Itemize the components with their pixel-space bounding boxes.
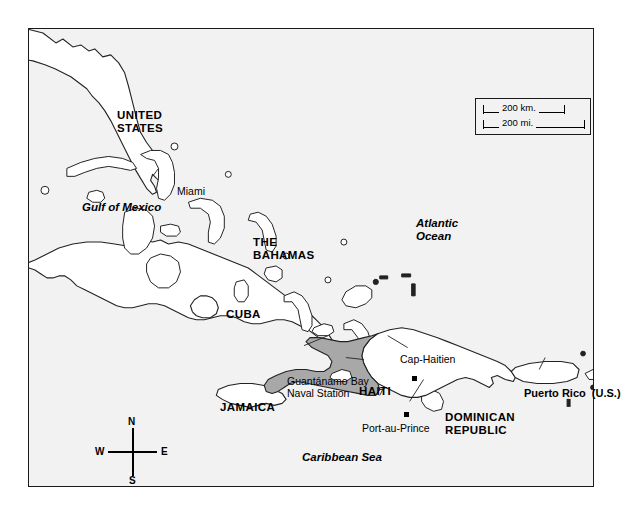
scale-bar-km: 200 km.	[483, 103, 585, 116]
label-united-states: UNITED STATES	[117, 109, 163, 135]
label-cuba: CUBA	[226, 308, 261, 321]
landmass-turks-and-caicos	[342, 274, 415, 308]
landmass-virgin-islands	[581, 351, 593, 390]
compass-label-west: W	[95, 446, 104, 457]
label-jamaica: JAMAICA	[220, 401, 275, 414]
label-gulf-of-mexico: Gulf of Mexico	[82, 201, 161, 214]
label-dominican-republic: DOMINICAN REPUBLIC	[445, 411, 515, 437]
compass-horizontal-axis	[108, 451, 157, 453]
scale-bar-mi-tick-right	[584, 120, 585, 129]
label-guantanamo-bay-naval-station: Guantánamo Bay Naval Station	[287, 376, 369, 400]
label-caribbean-sea: Caribbean Sea	[302, 451, 382, 464]
city-dot-cap-haitien	[412, 376, 417, 381]
map-page: 200 km. 200 mi. N S W E UNITED STATES TH…	[0, 0, 621, 519]
compass-label-south: S	[129, 475, 136, 486]
city-dot-port-au-prince	[404, 412, 409, 417]
compass-rose: N S W E	[95, 418, 171, 486]
scale-bar-km-tick-left	[483, 105, 484, 114]
landmass-puerto-rico	[511, 362, 579, 384]
scale-bar-km-label: 200 km.	[499, 102, 539, 113]
label-miami: Miami	[177, 186, 205, 198]
compass-label-north: N	[128, 416, 135, 427]
label-puerto-rico: Puerto Rico (U.S.)	[524, 387, 621, 399]
label-the-bahamas: THE BAHAMAS	[253, 236, 315, 262]
landmass-isla-de-la-juventud	[190, 296, 218, 318]
label-atlantic-ocean: Atlantic Ocean	[416, 217, 458, 243]
scale-bar-mi-label: 200 mi.	[499, 117, 536, 128]
scale-bar-mi-tick-left	[483, 120, 484, 129]
scale-bar-mi: 200 mi.	[483, 118, 585, 131]
scale-bar: 200 km. 200 mi.	[475, 98, 591, 135]
label-port-au-prince: Port-au-Prince	[362, 423, 430, 435]
landmass-lesser-antilles	[567, 399, 570, 406]
scale-bar-km-tick-right	[564, 105, 565, 114]
map-frame: 200 km. 200 mi. N S W E UNITED STATES TH…	[28, 28, 594, 487]
label-cap-haitien: Cap-Haitien	[400, 354, 455, 366]
compass-label-east: E	[161, 446, 168, 457]
